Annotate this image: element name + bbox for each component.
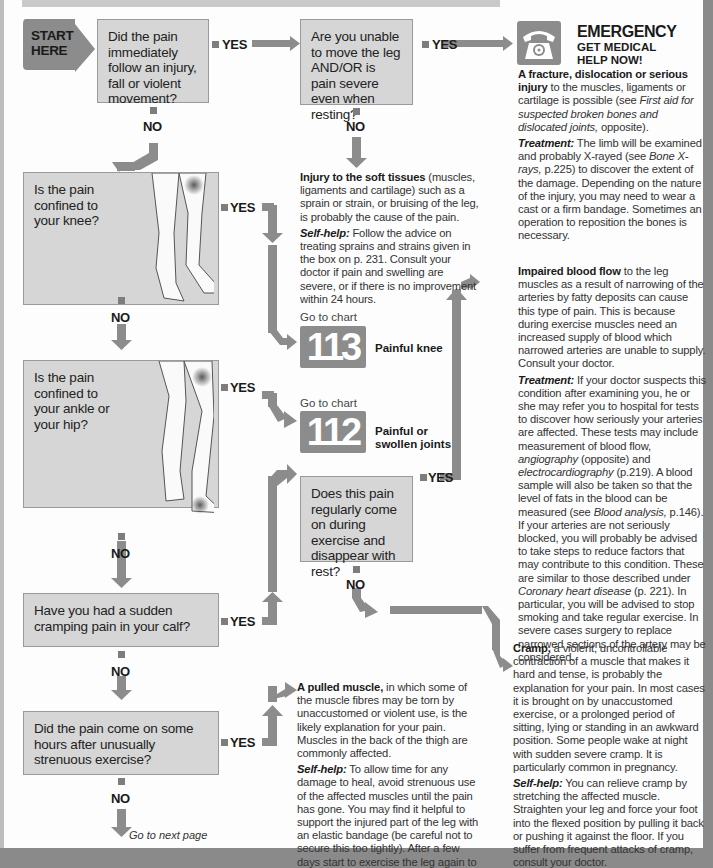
no-marker [118,778,125,785]
question-text: Have you had a sudden cramping pain in y… [34,603,190,634]
emergency-advice: A fracture, dislocation or serious injur… [518,68,703,246]
yes-marker [422,41,429,48]
no-marker [353,108,360,115]
question-text: Did the pain immediately follow an injur… [108,29,197,106]
yes-marker [221,739,228,746]
start-label-line2: HERE [31,43,74,58]
question-text: Is the pain confined to your knee? [34,182,116,229]
yes-label: YES [230,735,255,750]
no-label: NO [111,791,130,806]
chart-113-badge[interactable]: 113 [300,326,366,368]
no-marker [353,566,360,573]
chart-113-name[interactable]: Painful knee [375,342,443,355]
no-label: NO [143,119,162,134]
yes-label: YES [230,200,255,215]
no-label: NO [111,546,130,561]
yes-label: YES [432,37,457,52]
question-text: Did the pain come on some hours after un… [34,721,193,767]
telephone-icon [517,21,561,65]
no-label: NO [111,310,130,325]
blood-flow-advice: Impaired blood flow to the leg muscles a… [518,265,706,667]
yes-marker [221,204,228,211]
chart-112-name[interactable]: Painful or swollen joints [375,425,451,451]
yes-label: YES [230,614,255,629]
yes-label: YES [222,37,247,52]
start-here-marker: START HERE [23,16,93,71]
chart-112-badge[interactable]: 112 [300,411,366,453]
soft-tissue-advice: Injury to the soft tissues (muscles, lig… [300,171,480,309]
no-marker [118,533,125,540]
pulled-muscle-advice: A pulled muscle, in which some of the mu… [297,681,482,868]
yes-marker [212,41,219,48]
question-box-unable-to-move: Are you unable to move the leg AND/OR is… [300,19,413,105]
question-box-strenuous-exercise: Did the pain come on some hours after un… [23,711,219,775]
no-label: NO [346,577,365,592]
question-box-knee: Is the pain confined to your knee? [23,172,219,305]
legs-illustration-knee [124,173,214,303]
start-label-line1: START [31,28,74,43]
no-label: NO [346,119,365,134]
question-box-calf-cramp: Have you had a sudden cramping pain in y… [23,593,219,647]
yes-label: YES [428,470,453,485]
yes-marker [221,618,228,625]
go-to-next-page-link[interactable]: Go to next page [129,829,207,841]
yes-marker [221,384,228,391]
go-to-chart-label: Go to chart [300,311,357,323]
flowchart-page: START HERE Did the pain immediately foll… [0,0,713,868]
question-box-exercise-pain: Does this pain regularly come on during … [300,476,413,562]
no-marker [118,297,125,304]
question-box-ankle-hip: Is the pain confined to your ankle or yo… [23,360,219,508]
cramp-advice: Cramp, a violent, uncontrollable contrac… [513,642,705,868]
no-marker [118,651,125,658]
question-box-injury: Did the pain immediately follow an injur… [97,19,209,103]
yes-label: YES [230,380,255,395]
no-label: NO [111,664,130,679]
legs-illustration-ankle-hip [124,361,214,521]
emergency-subtitle: GET MEDICAL HELP NOW! [577,41,656,66]
yes-marker [420,474,427,481]
go-to-chart-label: Go to chart [300,397,357,409]
emergency-title: EMERGENCY [577,23,677,41]
question-text: Is the pain confined to your ankle or yo… [34,370,116,432]
no-marker [150,107,157,114]
